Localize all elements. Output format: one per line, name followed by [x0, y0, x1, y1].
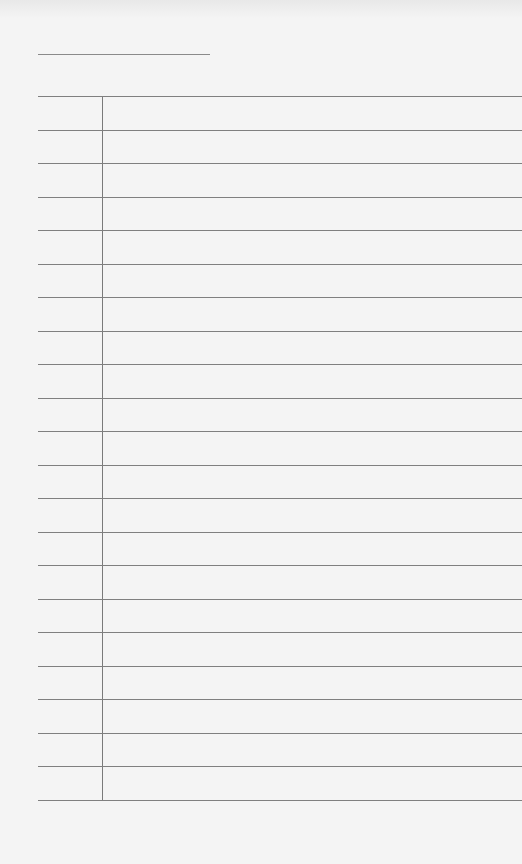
ruled-line	[38, 364, 522, 365]
ruled-line	[38, 599, 522, 600]
ruled-line	[38, 96, 522, 97]
ruled-line	[38, 632, 522, 633]
ruled-line	[38, 565, 522, 566]
ruled-line	[38, 766, 522, 767]
ruled-line	[38, 800, 522, 801]
ruled-line	[38, 297, 522, 298]
ruled-line	[38, 197, 522, 198]
ruled-line	[38, 264, 522, 265]
ruled-line	[38, 498, 522, 499]
ruled-table	[38, 96, 522, 800]
ruled-line	[38, 699, 522, 700]
title-underline	[38, 54, 210, 55]
ruled-line	[38, 666, 522, 667]
ruled-line	[38, 733, 522, 734]
ruled-line	[38, 163, 522, 164]
page-top-edge	[0, 0, 522, 18]
ruled-line	[38, 431, 522, 432]
ruled-line	[38, 331, 522, 332]
ruled-line	[38, 398, 522, 399]
ruled-line	[38, 130, 522, 131]
ruled-line	[38, 532, 522, 533]
left-margin-line	[102, 96, 103, 800]
ruled-line	[38, 465, 522, 466]
ruled-line	[38, 230, 522, 231]
